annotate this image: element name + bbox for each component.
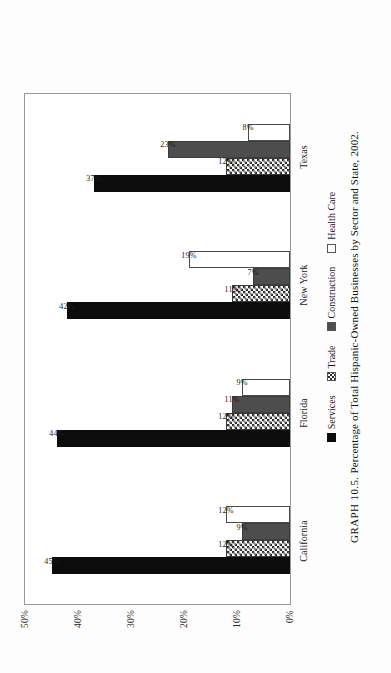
plot-frame: 50% 40% 30% 20% 10% 0% 45% 12% xyxy=(24,93,291,605)
bar-group-california: 45% 12% 9% 12% xyxy=(25,476,290,604)
crosshatch-swatch-icon xyxy=(326,372,335,381)
figure-caption-label: GRAPH 10.5. xyxy=(348,476,360,542)
bar-florida-trade[interactable]: 12% xyxy=(226,412,290,429)
dark-gray-swatch-icon xyxy=(326,322,335,331)
bar-value-label: 8% xyxy=(242,123,253,132)
figure-stage: 50% 40% 30% 20% 10% 0% 45% 12% xyxy=(20,27,372,647)
bar-new-york-services[interactable]: 42% xyxy=(67,302,290,319)
bar-florida-health-care[interactable]: 9% xyxy=(242,378,290,395)
legend-item-trade: Trade xyxy=(325,345,336,381)
bar-new-york-health-care[interactable]: 19% xyxy=(189,251,290,268)
category-label-new-york: New York xyxy=(291,221,317,349)
bar-texas-construction[interactable]: 23% xyxy=(168,140,290,157)
bar-california-trade[interactable]: 12% xyxy=(226,540,290,557)
bar-groups: 45% 12% 9% 12% xyxy=(25,94,290,604)
bar-value-label: 11% xyxy=(224,395,239,404)
legend-label-services: Services xyxy=(325,395,336,429)
legend-label-health-care: Health Care xyxy=(325,191,336,239)
bar-value-label: 9% xyxy=(236,522,247,531)
figure-caption: GRAPH 10.5. Percentage of Total Hispanic… xyxy=(348,27,360,647)
bar-california-construction[interactable]: 9% xyxy=(242,523,290,540)
bar-value-label: 12% xyxy=(218,157,233,166)
bar-california-health-care[interactable]: 12% xyxy=(226,506,290,523)
legend-item-health-care: Health Care xyxy=(325,191,336,252)
bar-value-label: 12% xyxy=(218,539,233,548)
category-label-texas: Texas xyxy=(291,93,317,221)
bar-value-label: 12% xyxy=(218,505,233,514)
bar-new-york-trade[interactable]: 11% xyxy=(231,285,289,302)
chart-plot-area: 50% 40% 30% 20% 10% 0% 45% 12% xyxy=(20,91,317,647)
bar-value-label: 7% xyxy=(247,267,258,276)
ytick-10: 10% xyxy=(232,610,242,628)
bar-group-texas: 37% 12% 23% 8% xyxy=(25,94,290,222)
bar-value-label: 19% xyxy=(181,250,196,259)
bar-new-york-construction[interactable]: 7% xyxy=(252,268,289,285)
category-label-florida: Florida xyxy=(291,349,317,477)
bar-texas-health-care[interactable]: 8% xyxy=(247,123,289,140)
bar-value-label: 12% xyxy=(218,412,233,421)
category-axis-labels: California Florida New York Texas xyxy=(291,93,317,605)
bar-texas-trade[interactable]: 12% xyxy=(226,157,290,174)
bar-florida-services[interactable]: 44% xyxy=(56,429,289,446)
ytick-40: 40% xyxy=(73,610,83,628)
book-page: 50% 40% 30% 20% 10% 0% 45% 12% xyxy=(0,0,391,673)
ytick-20: 20% xyxy=(179,610,189,628)
figure-caption-text: Percentage of Total Hispanic-Owned Busin… xyxy=(348,131,360,474)
legend-item-construction: Construction xyxy=(325,266,336,331)
legend-item-services: Services xyxy=(325,395,336,442)
bar-value-label: 9% xyxy=(236,378,247,387)
bar-value-label: 37% xyxy=(86,174,101,183)
bar-value-label: 11% xyxy=(224,284,239,293)
bar-california-services[interactable]: 45% xyxy=(51,557,290,574)
bar-value-label: 45% xyxy=(43,556,58,565)
bar-value-label: 44% xyxy=(49,429,64,438)
bar-texas-services[interactable]: 37% xyxy=(93,174,289,191)
black-filled-swatch-icon xyxy=(326,433,335,442)
white-outline-swatch-icon xyxy=(326,243,335,252)
bar-value-label: 42% xyxy=(59,301,74,310)
category-label-california: California xyxy=(291,477,317,605)
chart-legend: Services Trade Construction Health Care xyxy=(322,29,340,605)
legend-label-construction: Construction xyxy=(325,266,336,318)
ytick-50: 50% xyxy=(20,610,30,628)
bar-group-new-york: 42% 11% 7% 19% xyxy=(25,221,290,349)
bar-group-florida: 44% 12% 11% 9% xyxy=(25,349,290,477)
ytick-0: 0% xyxy=(285,610,295,623)
bar-florida-construction[interactable]: 11% xyxy=(231,395,289,412)
bar-value-label: 23% xyxy=(160,140,175,149)
ytick-30: 30% xyxy=(126,610,136,628)
legend-label-trade: Trade xyxy=(325,345,336,368)
